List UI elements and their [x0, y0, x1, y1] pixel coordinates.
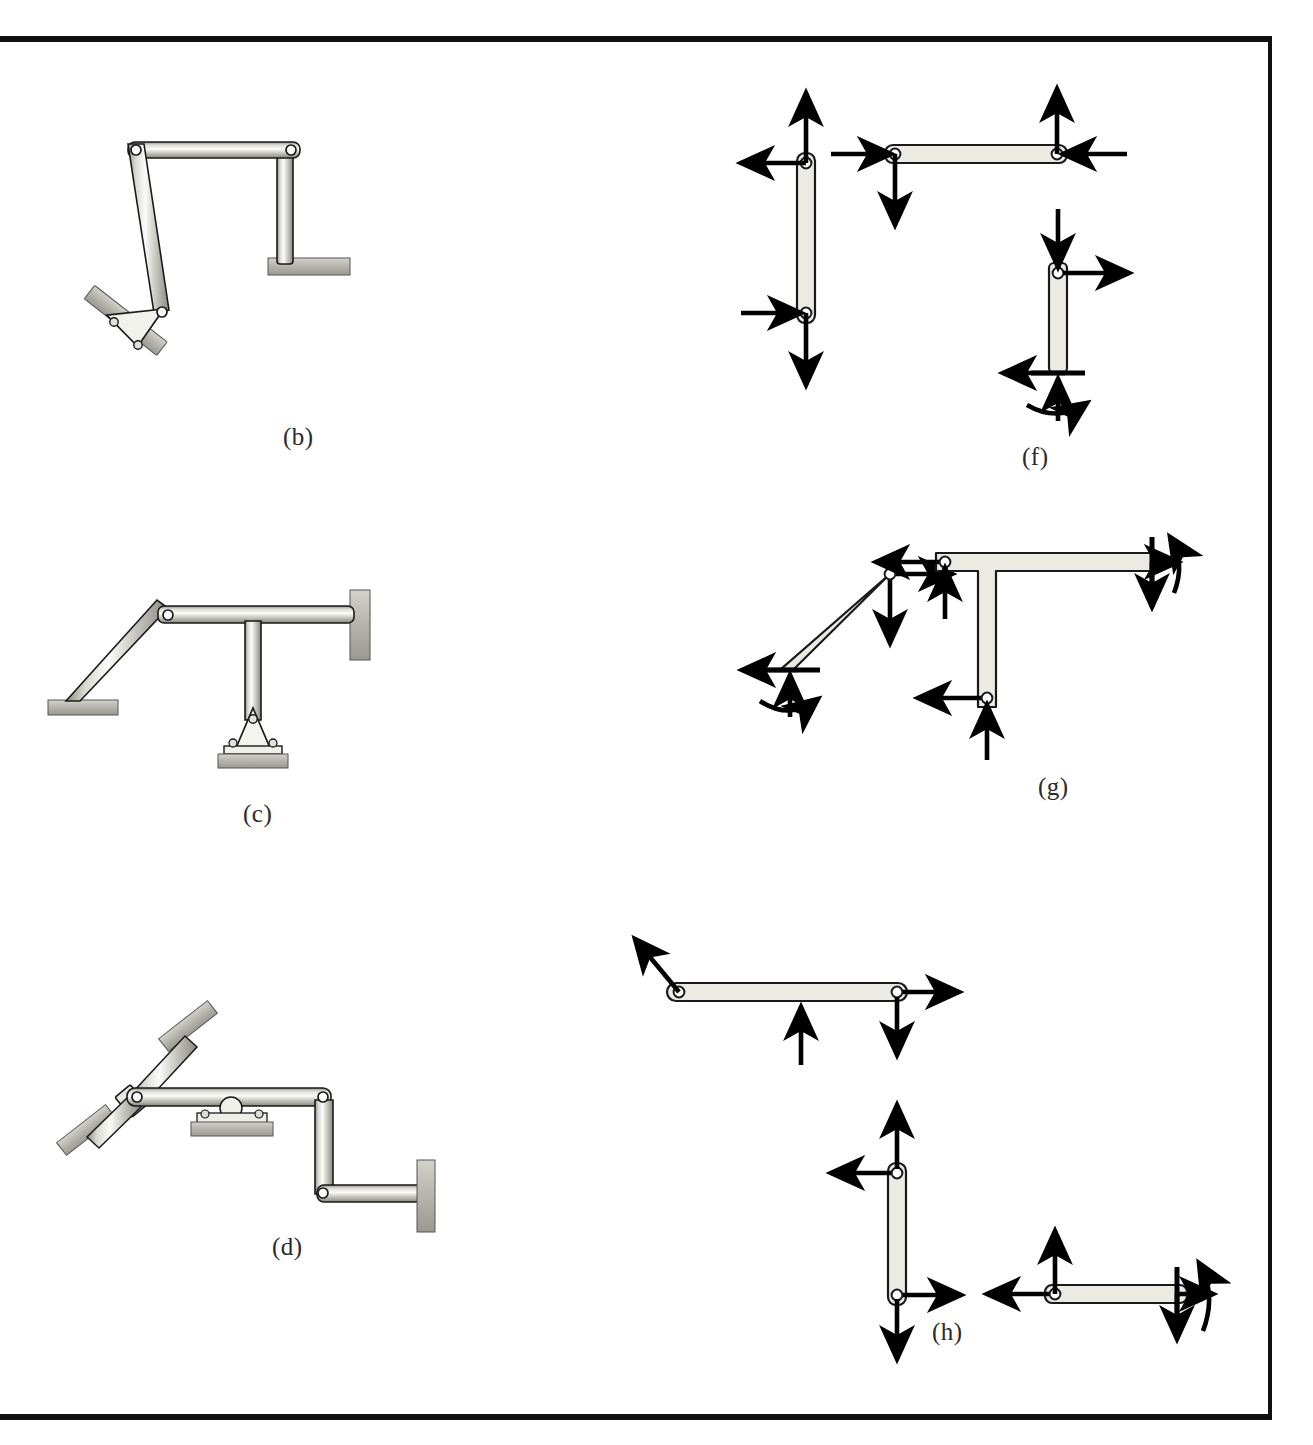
figure-d — [45, 1000, 465, 1250]
support-wall-right — [417, 1160, 435, 1232]
caption-g: (g) — [1038, 773, 1069, 801]
fbd-f-right-vertical-body — [1031, 263, 1085, 373]
support-pad-left-ground — [48, 700, 118, 715]
bolted-pin-base-bracket — [218, 708, 288, 768]
caption-d: (d) — [272, 1233, 303, 1261]
member-lower-horizontal — [317, 1185, 427, 1202]
arrow-h1-diagonal-left-pin — [635, 939, 679, 992]
support-wall-right — [350, 590, 370, 660]
page-border-right — [1268, 36, 1272, 1420]
member-top-horizontal — [128, 142, 300, 158]
fbd-f-left-vertical-body — [797, 153, 815, 323]
figure-f — [735, 85, 1165, 425]
page-border-top — [0, 36, 1272, 42]
caption-c: (c) — [243, 800, 272, 828]
pin-upper-left — [131, 145, 141, 155]
caption-h: (h) — [932, 1318, 963, 1346]
arrow-g2-couple-fixed-end — [1170, 537, 1179, 593]
member-right-vertical — [315, 1100, 333, 1194]
fbd-h-long-horizontal-body — [667, 983, 907, 1001]
fbd-g-inclined-strut-body — [765, 568, 896, 670]
page-border-bottom — [0, 1414, 1272, 1420]
pin-right — [318, 1092, 328, 1102]
figure-b — [70, 130, 370, 410]
pin-apex — [163, 610, 173, 620]
figure-g — [740, 535, 1180, 795]
member-inclined-strut — [66, 600, 168, 701]
figure-h — [605, 915, 1215, 1315]
figure-c — [40, 580, 390, 810]
pin-left — [132, 1092, 142, 1102]
fbd-h-vertical-body — [888, 1163, 906, 1305]
fbd-g-tee-body — [936, 537, 1158, 707]
fbd-h-lower-horizontal-body — [1045, 1267, 1187, 1319]
member-left-inclined-column — [128, 144, 169, 313]
pin-base-bracket — [157, 307, 167, 317]
fbd-f-top-horizontal-body — [885, 145, 1067, 163]
pin-lower-right — [318, 1188, 328, 1198]
member-vertical-stem — [245, 621, 261, 720]
member-right-column — [277, 148, 293, 264]
caption-b: (b) — [283, 423, 314, 451]
caption-f: (f) — [1022, 443, 1048, 471]
pin-upper-right — [286, 145, 296, 155]
